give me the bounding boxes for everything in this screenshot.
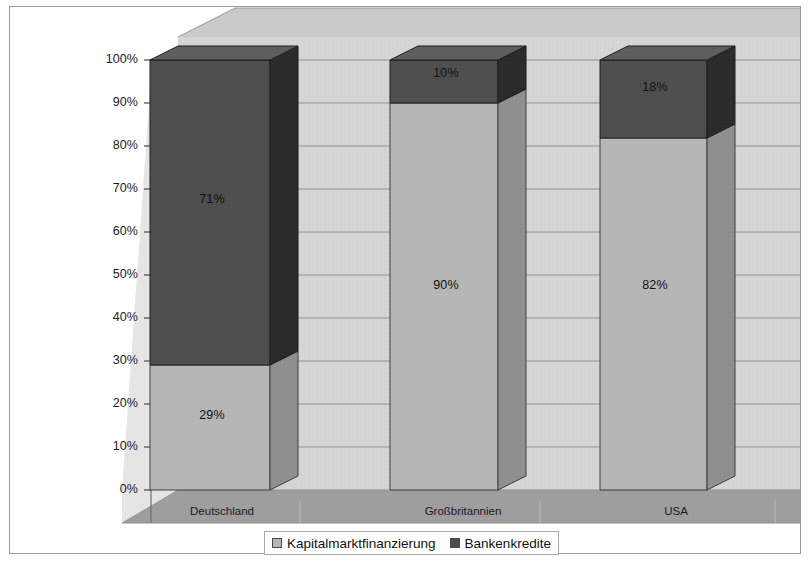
- bar-value-label-usa-bankenkredite: 18%: [600, 80, 710, 94]
- y-tick-label: 90%: [78, 95, 138, 109]
- y-tick-label: 40%: [78, 310, 138, 324]
- chart-legend: Kapitalmarktfinanzierung Bankenkredite: [264, 531, 559, 555]
- y-tick-label: 10%: [78, 439, 138, 453]
- legend-item-kapitalmarktfinanzierung[interactable]: Kapitalmarktfinanzierung: [272, 536, 436, 551]
- legend-label-bankenkredite: Bankenkredite: [465, 536, 551, 551]
- legend-swatch-icon-kapitalmarktfinanzierung: [272, 538, 282, 548]
- bar-value-label-deutschland-bankenkredite: 71%: [157, 192, 267, 206]
- legend-item-bankenkredite[interactable]: Bankenkredite: [450, 536, 551, 551]
- y-tick-label: 60%: [78, 224, 138, 238]
- y-tick-label: 50%: [78, 267, 138, 281]
- y-tick-label: 30%: [78, 353, 138, 367]
- chart-container: 100% 90% 80% 70% 60% 50% 40% 30% 20% 10%…: [0, 0, 812, 562]
- y-tick-label: 70%: [78, 181, 138, 195]
- bar-group-deutschland[interactable]: [150, 46, 298, 490]
- x-tick-label-grossbritannien: Großbritannien: [393, 505, 533, 517]
- bar-group-grossbritannien[interactable]: [390, 46, 526, 490]
- x-tick-label-deutschland: Deutschland: [157, 505, 287, 517]
- bar-segment-usa-kapitalmarktfinanzierung[interactable]: [600, 124, 735, 490]
- legend-swatch-icon-bankenkredite: [450, 538, 460, 548]
- y-tick-label: 100%: [78, 52, 138, 66]
- bar-value-label-deutschland-kapitalmarktfinanzierung: 29%: [157, 408, 267, 422]
- bar-group-usa[interactable]: [600, 46, 735, 490]
- bar-value-label-grossbritannien-bankenkredite: 10%: [391, 66, 501, 80]
- y-tick-label: 80%: [78, 138, 138, 152]
- y-tick-label: 20%: [78, 396, 138, 410]
- legend-label-kapitalmarktfinanzierung: Kapitalmarktfinanzierung: [287, 536, 436, 551]
- bar-value-label-usa-kapitalmarktfinanzierung: 82%: [600, 278, 710, 292]
- side-wall: [178, 8, 800, 37]
- x-tick-label-usa: USA: [621, 505, 731, 517]
- y-tick-label: 0%: [78, 482, 138, 496]
- bar-value-label-grossbritannien-kapitalmarktfinanzierung: 90%: [391, 278, 501, 292]
